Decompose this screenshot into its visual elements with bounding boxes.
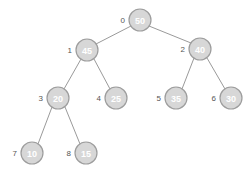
tree-node-1[interactable]: 451 [68,39,98,61]
node-index-label-7: 7 [13,149,18,158]
node-value-1: 45 [82,46,92,56]
node-value-0: 50 [135,16,145,26]
node-value-7: 10 [27,149,37,159]
node-index-label-4: 4 [97,94,102,103]
tree-edge-0-1 [96,26,131,44]
tree-edge-1-3 [64,59,81,89]
tree-node-0[interactable]: 500 [121,9,151,31]
node-value-6: 30 [226,94,236,104]
node-index-label-3: 3 [39,94,44,103]
tree-node-8[interactable]: 158 [67,142,97,164]
node-index-label-0: 0 [121,16,126,25]
tree-diagram-canvas: 500451402203254355306107158 [0,0,252,175]
tree-node-5[interactable]: 355 [157,87,187,109]
tree-edge-3-7 [38,107,52,144]
node-index-label-2: 2 [181,45,186,54]
node-value-4: 25 [111,94,121,104]
tree-edge-0-2 [149,26,191,43]
tree-edge-2-5 [182,58,194,89]
node-index-label-8: 8 [67,149,72,158]
node-value-5: 35 [171,94,181,104]
node-value-3: 20 [53,94,63,104]
tree-node-7[interactable]: 107 [13,142,43,164]
binary-search-tree-graphic: 500451402203254355306107158 [0,0,252,175]
tree-edge-3-8 [65,107,80,144]
tree-node-3[interactable]: 203 [39,87,69,109]
node-value-2: 40 [195,45,205,55]
tree-edge-2-6 [207,58,225,89]
node-value-8: 15 [81,149,91,159]
tree-edge-1-4 [94,59,110,89]
node-index-label-6: 6 [212,94,217,103]
tree-node-4[interactable]: 254 [97,87,127,109]
tree-node-6[interactable]: 306 [212,87,242,109]
tree-nodes-group: 500451402203254355306107158 [13,9,242,164]
tree-node-2[interactable]: 402 [181,38,211,60]
node-index-label-5: 5 [157,94,162,103]
node-index-label-1: 1 [68,46,73,55]
